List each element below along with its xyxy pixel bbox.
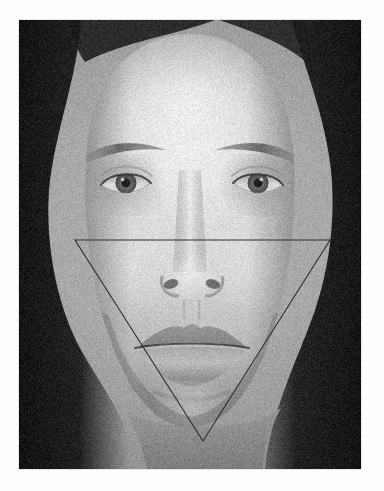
portrait-photograph [19,20,361,469]
page-root [0,0,384,491]
face-photo [19,20,361,469]
